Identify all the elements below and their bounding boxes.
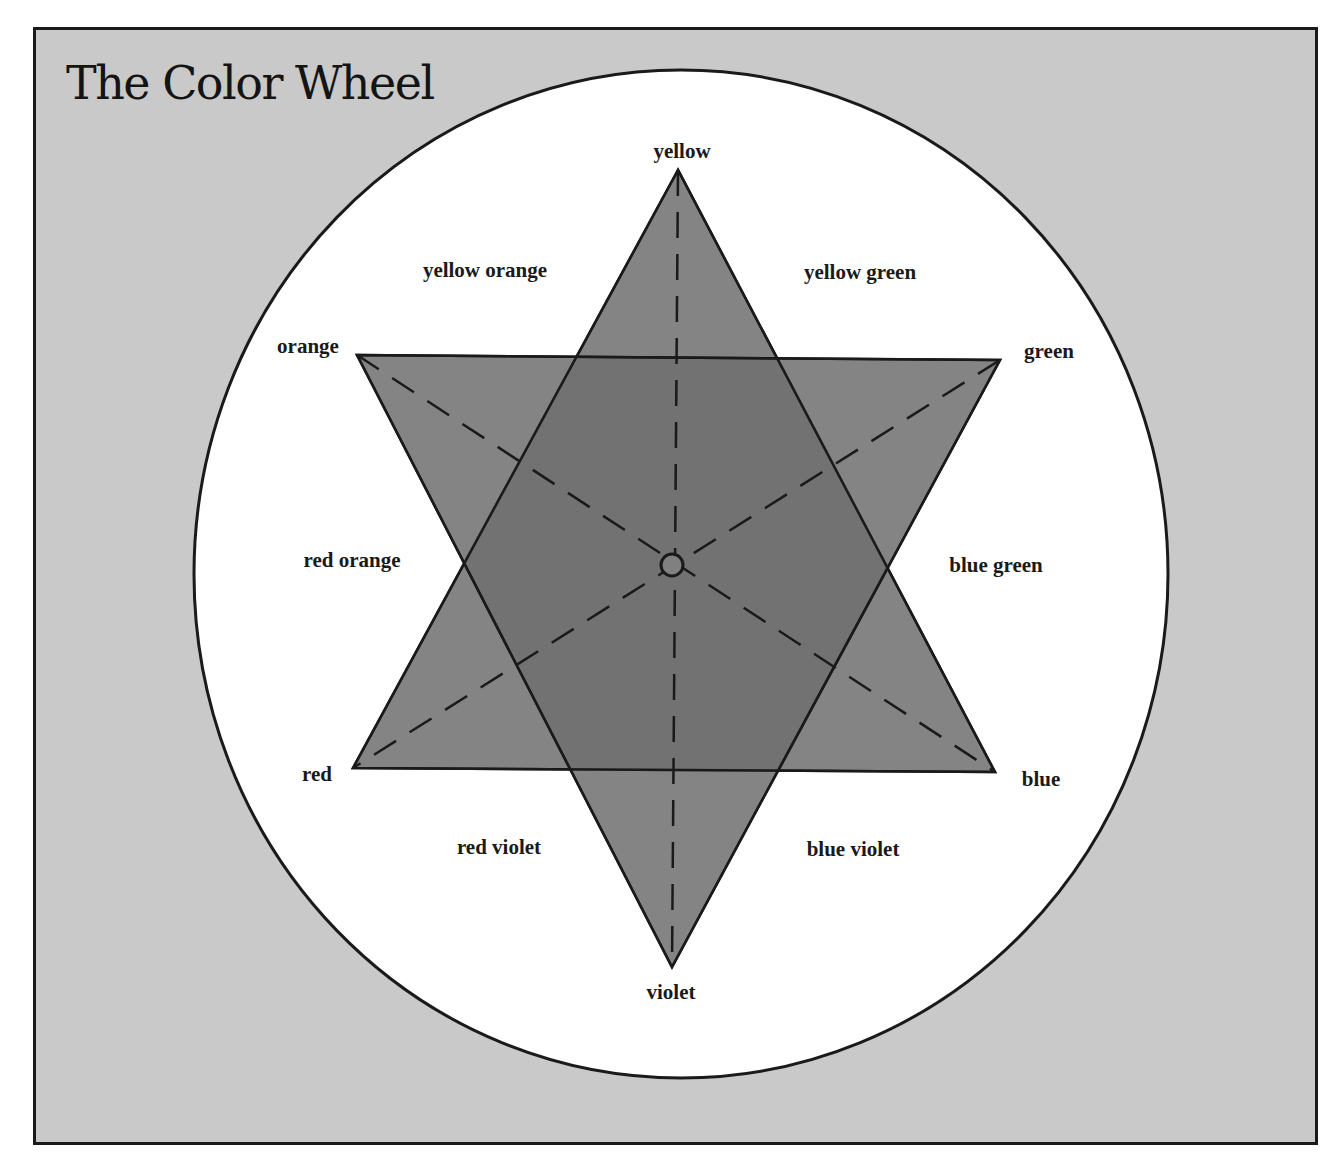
label-blue: blue — [1022, 767, 1061, 792]
label-green: green — [1024, 339, 1074, 364]
label-blue-green: blue green — [949, 553, 1043, 578]
label-violet: violet — [647, 980, 696, 1005]
center-marker — [661, 554, 683, 576]
page-title: The Color Wheel — [66, 56, 434, 110]
label-blue-violet: blue violet — [807, 837, 900, 862]
label-red-orange: red orange — [303, 548, 400, 573]
label-red-violet: red violet — [457, 835, 541, 860]
label-yellow: yellow — [653, 139, 710, 164]
label-orange: orange — [277, 334, 339, 359]
label-yellow-green: yellow green — [804, 260, 916, 285]
label-red: red — [302, 762, 332, 787]
label-yellow-orange: yellow orange — [423, 258, 547, 283]
